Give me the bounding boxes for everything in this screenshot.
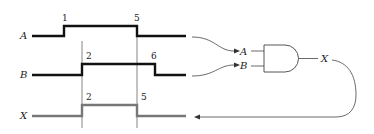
- signal-label-a: A: [19, 30, 27, 41]
- gate-input-label-b: B: [239, 60, 247, 71]
- waveform-x: [32, 105, 186, 116]
- arrow-x-icon: [194, 115, 200, 120]
- and-gate-icon: [264, 45, 299, 72]
- label-a-rise: 1: [62, 13, 68, 23]
- waveform-a: [32, 26, 186, 36]
- waveform-b: [32, 64, 186, 75]
- label-a-fall: 5: [134, 13, 140, 23]
- label-b-rise: 2: [86, 51, 92, 61]
- timing-diagram: A 1 5 B 2 6 X 2 5 A B X: [0, 0, 374, 134]
- signal-label-b: B: [19, 69, 27, 80]
- label-x-fall: 5: [141, 92, 147, 102]
- connector-a: [192, 37, 234, 51]
- signal-label-x: X: [19, 110, 28, 121]
- label-x-rise: 2: [86, 92, 92, 102]
- connector-b: [192, 65, 234, 76]
- gate-input-label-a: A: [239, 46, 247, 57]
- gate-output-label-x: X: [320, 53, 329, 64]
- label-b-fall: 6: [151, 51, 157, 61]
